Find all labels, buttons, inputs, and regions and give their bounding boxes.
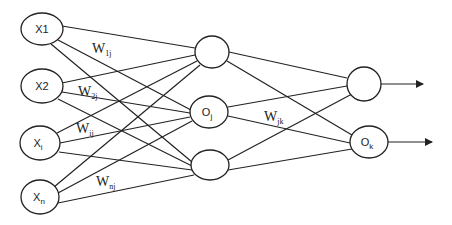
input-layer: X1 X2 Xi Xn (20, 13, 63, 214)
edge-x1-h1 (62, 26, 195, 48)
weight-wnj-sub: nj (109, 182, 115, 191)
node-xn: Xn (21, 180, 59, 214)
node-x2-label: X2 (35, 80, 48, 92)
node-xi: Xi (20, 126, 60, 160)
weight-wij-sub: ij (89, 129, 93, 138)
svg-text:Wjk: Wjk (264, 109, 283, 126)
edge-x2-h1 (62, 55, 195, 83)
node-h3 (191, 150, 229, 180)
node-x2: X2 (21, 69, 63, 103)
edge-h1-ok (227, 61, 352, 135)
hidden-layer: Oj (190, 36, 229, 180)
edge-xi-h3 (59, 152, 192, 170)
svg-text:X1: X1 (35, 23, 48, 35)
svg-text:X2: X2 (35, 80, 48, 92)
weight-w2j: W (78, 84, 92, 99)
node-ok: Ok (350, 126, 388, 158)
svg-text:Wij: Wij (76, 121, 94, 138)
edge-x1-h3 (51, 44, 192, 162)
node-xn-sub: n (40, 197, 44, 206)
weight-w2j-sub: 2j (91, 92, 97, 101)
neural-network-diagram: X1 X2 Xi Xn Oj (0, 0, 452, 225)
weight-w1j-sub: 1j (105, 49, 111, 58)
node-oj: Oj (190, 96, 228, 128)
weight-wnj: W (96, 174, 110, 189)
node-x1-label: X1 (35, 23, 48, 35)
node-x1: X1 (21, 13, 63, 45)
svg-text:W1j: W1j (92, 41, 111, 58)
weight-wjk: W (264, 109, 278, 124)
weight-w1j: W (92, 41, 106, 56)
node-o1 (347, 67, 381, 101)
output-layer: Ok (347, 67, 388, 158)
edge-xn-h3 (58, 175, 194, 203)
svg-text:Wnj: Wnj (96, 174, 115, 191)
weight-wjk-sub: jk (276, 117, 283, 126)
svg-text:W2j: W2j (78, 84, 97, 101)
edge-oj-o1 (228, 86, 347, 107)
weight-wij: W (76, 121, 90, 136)
edge-h3-ok (228, 149, 352, 170)
hidden-output-edges (227, 52, 352, 170)
node-xi-sub: i (41, 143, 43, 152)
node-h1 (195, 36, 229, 68)
edge-oj-ok (228, 116, 350, 143)
input-hidden-edges (51, 26, 200, 203)
node-oj-sub: j (209, 112, 212, 121)
edge-h1-o1 (229, 52, 347, 78)
